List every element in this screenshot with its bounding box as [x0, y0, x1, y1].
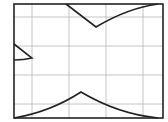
top-cusp-curve — [66, 4, 158, 27]
diagram-canvas — [0, 0, 168, 122]
curves — [14, 4, 158, 118]
cusp-curve-diagram — [0, 0, 168, 122]
bottom-cusp-curve — [14, 92, 158, 118]
left-cusp-curve — [14, 44, 32, 60]
